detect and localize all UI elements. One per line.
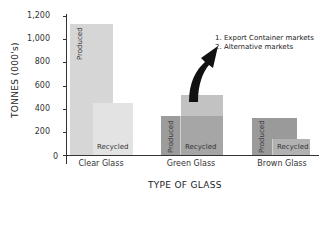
category-label-clear: Clear Glass	[66, 159, 136, 168]
annotation-line-2: 2. Alternative markets	[215, 43, 293, 52]
x-axis-title: TYPE OF GLASS	[148, 180, 222, 190]
category-label-brown: Brown Glass	[247, 159, 317, 168]
annotation-line-1: 1. Export Container markets	[215, 34, 314, 43]
category-label-green: Green Glass	[156, 159, 226, 168]
